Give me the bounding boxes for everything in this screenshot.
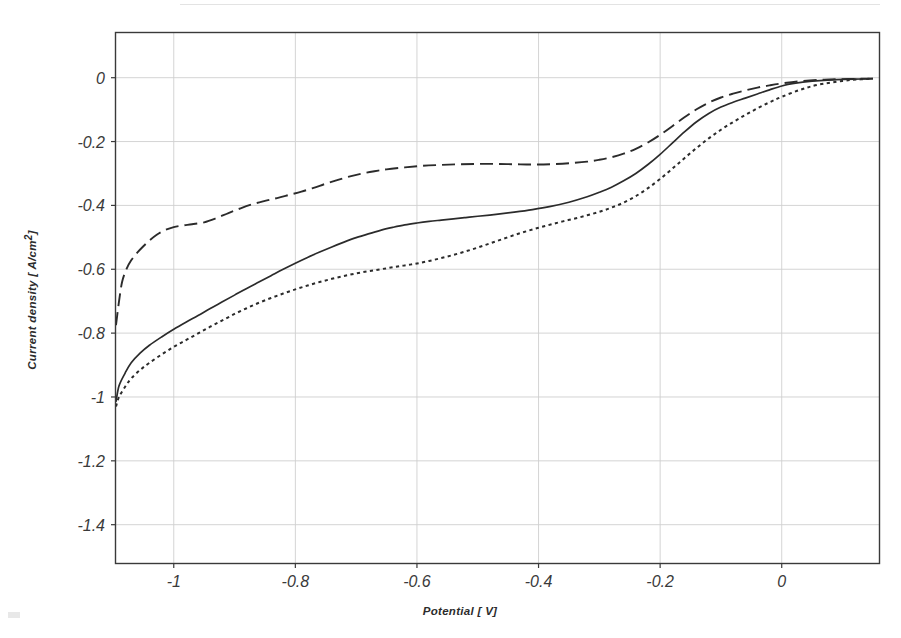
y-tick-labels: 0-0.2-0.4-0.6-0.8-1-1.2-1.4: [77, 70, 105, 534]
y-tick-label: -0.4: [77, 197, 105, 214]
x-tick-label: -1: [167, 573, 181, 590]
y-axis-title-group: Current density [ A/cm2]: [23, 229, 38, 369]
y-tick-label: -1: [91, 389, 105, 406]
x-tick-label: -0.2: [646, 573, 674, 590]
x-tick-label: -0.6: [403, 573, 431, 590]
y-tick-label: -1.2: [77, 453, 105, 470]
chart-figure: -1-0.8-0.6-0.4-0.20 0-0.2-0.4-0.6-0.8-1-…: [0, 0, 901, 638]
series-path-dashed-curve: [116, 79, 873, 325]
x-tick-label: -0.4: [525, 573, 553, 590]
series-path-dotted-curve: [116, 79, 873, 407]
y-tick-label: -0.8: [77, 325, 105, 342]
y-tick-label: 0: [96, 70, 105, 87]
scan-artifact-bottom: [8, 612, 20, 618]
x-tick-labels: -1-0.8-0.6-0.4-0.20: [167, 573, 787, 590]
x-tick-label: -0.8: [282, 573, 310, 590]
tick-marks: [111, 78, 782, 568]
scan-artifact-top: [180, 4, 880, 5]
y-tick-label: -1.4: [77, 517, 105, 534]
y-axis-title: Current density [ A/cm2]: [23, 229, 38, 369]
y-tick-label: -0.2: [77, 134, 105, 151]
x-axis-title: Potential [ V]: [423, 605, 498, 617]
series-path-solid-curve: [116, 79, 873, 402]
data-series-group: [116, 79, 873, 407]
polarization-curve-plot: -1-0.8-0.6-0.4-0.20 0-0.2-0.4-0.6-0.8-1-…: [0, 0, 901, 638]
x-tick-label: 0: [777, 573, 786, 590]
y-tick-label: -0.6: [77, 261, 105, 278]
